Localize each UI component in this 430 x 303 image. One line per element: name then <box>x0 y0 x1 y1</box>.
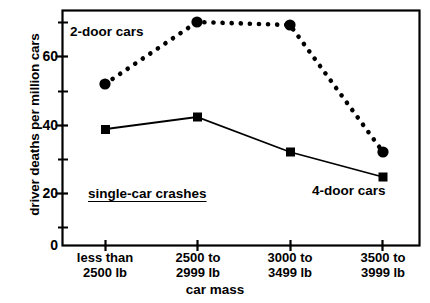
chart-figure: driver deaths per million cars 60 40 20 … <box>0 0 430 303</box>
data-point-4door-1 <box>193 113 202 122</box>
data-point-2door-2 <box>284 19 295 30</box>
series-line-2door <box>105 22 383 152</box>
data-point-2door-3 <box>377 146 388 157</box>
x-axis-label: car mass <box>0 282 430 297</box>
x-tick-label-3-line1: 3500 to <box>328 250 430 265</box>
x-tick-label-3-line2: 3999 lb <box>328 265 430 280</box>
series-line-4door <box>106 117 383 177</box>
data-point-4door-2 <box>286 148 295 157</box>
x-tick-label-3: 3500 to 3999 lb <box>328 250 430 280</box>
data-point-2door-1 <box>191 16 202 27</box>
series-markers-4door <box>101 113 388 182</box>
series-label-2door: 2-door cars <box>70 24 144 39</box>
data-point-2door-0 <box>99 78 110 89</box>
data-point-4door-0 <box>101 125 110 134</box>
data-point-4door-3 <box>379 173 388 182</box>
crash-type-annotation: single-car crashes <box>88 186 207 201</box>
series-label-4door: 4-door cars <box>312 183 386 198</box>
